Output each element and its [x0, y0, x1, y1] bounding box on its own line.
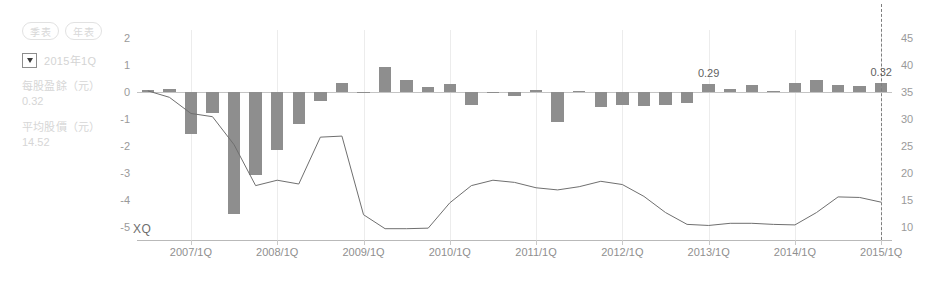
x-axis-label: 2013/1Q — [688, 246, 730, 258]
x-axis-tick — [364, 240, 365, 245]
chart-plot-area: XQ 2007/1Q2008/1Q2009/1Q2010/1Q2011/1Q20… — [137, 30, 892, 240]
metric-avg-price-label: 平均股價（元） — [22, 120, 134, 135]
metric-eps-value: 0.32 — [22, 94, 134, 109]
y-axis-right-label: 15 — [901, 194, 913, 206]
x-axis-line — [137, 240, 892, 241]
x-axis-tick — [277, 240, 278, 245]
period-toggle-annual[interactable]: 年表 — [65, 22, 102, 40]
y-axis-left-label: -1 — [120, 113, 130, 125]
y-axis-left-label: -2 — [120, 140, 130, 152]
y-axis-right-label: 20 — [901, 167, 913, 179]
x-axis-tick — [536, 240, 537, 245]
bar-data-label: 0.29 — [698, 67, 719, 79]
x-axis-label: 2015/1Q — [860, 246, 902, 258]
x-axis-tick — [881, 240, 882, 245]
y-axis-left-label: -4 — [120, 194, 130, 206]
metric-avg-price: 平均股價（元） 14.52 — [22, 120, 134, 150]
dropdown-caret-icon[interactable] — [22, 53, 37, 68]
x-axis-label: 2009/1Q — [342, 246, 384, 258]
y-axis-right-label: 30 — [901, 113, 913, 125]
current-period-marker — [881, 4, 882, 240]
y-axis-right-label: 10 — [901, 221, 913, 233]
x-axis-label: 2011/1Q — [515, 246, 556, 258]
y-axis-left-label: 2 — [124, 32, 130, 44]
y-axis-left-label: 1 — [124, 59, 130, 71]
x-axis-tick — [795, 240, 796, 245]
x-axis-tick — [450, 240, 451, 245]
period-toggle-annual-label: 年表 — [73, 24, 94, 39]
y-axis-left-label: 0 — [124, 86, 130, 98]
y-axis-right-label: 35 — [901, 86, 913, 98]
y-axis-right-label: 25 — [901, 140, 913, 152]
x-axis-label: 2012/1Q — [601, 246, 643, 258]
x-axis-label: 2010/1Q — [429, 246, 471, 258]
x-axis-tick — [622, 240, 623, 245]
price-line-series — [137, 30, 892, 240]
y-axis-left-label: -5 — [120, 221, 130, 233]
bar-data-label: 0.32 — [870, 66, 891, 78]
x-axis-label: 2014/1Q — [774, 246, 816, 258]
x-axis-tick — [191, 240, 192, 245]
y-axis-left-label: -3 — [120, 167, 130, 179]
period-selector[interactable]: 2015年1Q — [22, 52, 134, 68]
period-toggle-quarterly[interactable]: 季表 — [22, 22, 59, 40]
metric-eps: 每股盈餘（元） 0.32 — [22, 79, 134, 109]
period-toggle-group: 季表 年表 — [22, 22, 134, 40]
control-panel: 季表 年表 2015年1Q 每股盈餘（元） 0.32 平均股價（元） 14.52 — [22, 22, 134, 150]
x-axis-tick — [709, 240, 710, 245]
chart-screenshot: 季表 年表 2015年1Q 每股盈餘（元） 0.32 平均股價（元） 14.52… — [0, 0, 947, 290]
x-axis-label: 2007/1Q — [170, 246, 212, 258]
y-axis-right-label: 45 — [901, 32, 913, 44]
period-toggle-quarterly-label: 季表 — [30, 24, 51, 39]
metric-avg-price-value: 14.52 — [22, 135, 134, 150]
period-selector-value: 2015年1Q — [44, 52, 96, 68]
price-line-path — [148, 91, 881, 229]
x-axis-label: 2008/1Q — [256, 246, 298, 258]
metric-eps-label: 每股盈餘（元） — [22, 79, 134, 94]
y-axis-right-label: 40 — [901, 59, 913, 71]
